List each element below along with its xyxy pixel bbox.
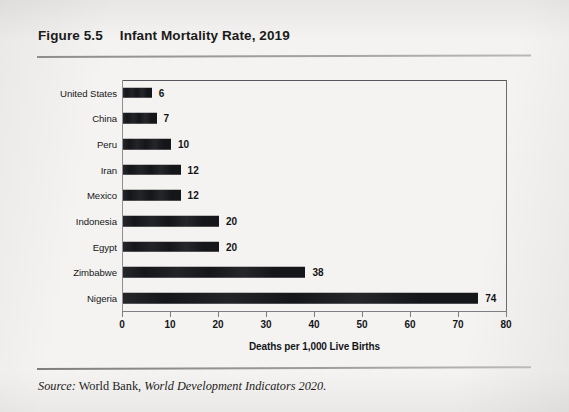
x-axis-tick <box>458 312 459 317</box>
x-axis-tick <box>170 312 171 317</box>
bar <box>123 190 181 201</box>
bar-row: Nigeria74 <box>0 285 569 311</box>
bar-value-label: 20 <box>226 241 237 252</box>
bar-category-label: Indonesia <box>76 216 117 227</box>
x-axis-tick <box>410 312 411 317</box>
x-axis-tick-label: 50 <box>356 319 367 330</box>
bar-category-label: Egypt <box>93 241 117 252</box>
x-axis-title: Deaths per 1,000 Live Births <box>122 341 507 352</box>
bar-category-label: United States <box>60 87 117 98</box>
x-axis-tick <box>362 312 363 317</box>
bar-chart: United States6China7Peru10Iran12Mexico12… <box>0 0 569 412</box>
source-label: Source: <box>38 379 76 393</box>
bar <box>123 88 152 99</box>
x-axis-tick-label: 20 <box>212 319 223 330</box>
x-axis-tick <box>218 312 219 317</box>
x-axis-tick <box>266 312 267 317</box>
bar-value-label: 10 <box>178 139 189 150</box>
bar-row: Indonesia20 <box>0 208 569 234</box>
bar-value-label: 38 <box>312 267 323 278</box>
bar <box>123 293 478 304</box>
x-axis-tick-label: 30 <box>260 319 271 330</box>
x-axis-tick-label: 40 <box>308 319 319 330</box>
bar-row: Iran12 <box>0 157 569 183</box>
bar-category-label: Peru <box>97 139 117 150</box>
bar-row: Egypt20 <box>0 234 569 260</box>
bar-category-label: Mexico <box>87 190 117 201</box>
bar <box>123 242 219 253</box>
x-axis-tick <box>122 312 123 317</box>
bar-row: Peru10 <box>0 131 569 157</box>
source-work: World Development Indicators 2020. <box>144 379 326 393</box>
bar-value-label: 12 <box>188 190 199 201</box>
bar-row: Mexico12 <box>0 183 569 209</box>
bar-category-label: Nigeria <box>87 293 117 304</box>
source-note: Source: World Bank, World Development In… <box>38 379 326 394</box>
figure-page: Figure 5.5Infant Mortality Rate, 2019 Un… <box>0 0 569 412</box>
bar-value-label: 74 <box>485 293 496 304</box>
source-publisher: World Bank, <box>79 379 142 393</box>
bar-row: Zimbabwe38 <box>0 260 569 286</box>
x-axis-tick-label: 70 <box>452 319 463 330</box>
bar-value-label: 6 <box>159 87 165 98</box>
bar <box>123 113 157 124</box>
bar <box>123 139 171 150</box>
bar-category-label: China <box>92 113 117 124</box>
x-axis-tick-label: 80 <box>500 319 511 330</box>
bar-value-label: 12 <box>188 164 199 175</box>
x-axis-tick-label: 10 <box>164 319 175 330</box>
x-axis-tick-label: 0 <box>119 319 125 330</box>
x-axis-tick <box>314 312 315 317</box>
x-axis-tick-label: 60 <box>404 319 415 330</box>
x-axis-tick <box>506 312 507 317</box>
bar-row: China7 <box>0 106 569 132</box>
bar-category-label: Iran <box>101 164 117 175</box>
bar <box>123 165 181 176</box>
bar-category-label: Zimbabwe <box>73 267 117 278</box>
bar-row: United States6 <box>0 80 569 106</box>
bar <box>123 216 219 227</box>
bar <box>123 267 305 278</box>
bar-value-label: 7 <box>164 113 170 124</box>
bar-value-label: 20 <box>226 216 237 227</box>
